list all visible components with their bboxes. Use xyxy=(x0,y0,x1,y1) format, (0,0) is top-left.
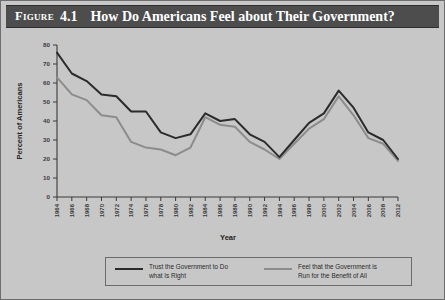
x-tick-label: 2012 xyxy=(395,203,401,217)
x-tick-label: 1984 xyxy=(202,203,208,217)
line-chart: 01020304050607080 1964196619681970197219… xyxy=(6,28,439,296)
legend-label-benefit: Feel that the Government is Run for the … xyxy=(298,263,377,280)
figure-title-bar: Figure 4.1 How Do Americans Feel about T… xyxy=(6,5,439,28)
x-tick-label: 1968 xyxy=(84,203,90,217)
y-tick-label: 50 xyxy=(43,98,50,105)
y-tick-label: 80 xyxy=(43,41,50,48)
figure-label: Figure xyxy=(15,9,54,24)
x-tick-label: 1994 xyxy=(277,203,283,217)
x-tick-label: 2002 xyxy=(336,203,342,217)
y-tick-group: 01020304050607080 xyxy=(43,41,57,200)
y-tick-label: 0 xyxy=(47,193,51,200)
figure-title: How Do Americans Feel about Their Govern… xyxy=(90,9,394,25)
x-tick-label: 1988 xyxy=(232,203,238,217)
plot-area: 01020304050607080 1964196619681970197219… xyxy=(6,28,439,296)
y-tick-label: 30 xyxy=(43,136,50,143)
y-axis-title: Percent of Americans xyxy=(15,83,24,160)
x-tick-label: 2000 xyxy=(321,203,327,217)
x-axis-title: Year xyxy=(220,233,236,242)
x-tick-label: 1964 xyxy=(54,203,60,217)
figure-container: Figure 4.1 How Do Americans Feel about T… xyxy=(0,0,445,300)
y-tick-label: 70 xyxy=(43,60,50,67)
x-tick-label: 1986 xyxy=(217,203,223,217)
y-tick-label: 40 xyxy=(43,117,50,124)
x-tick-label: 1980 xyxy=(173,203,179,217)
chart-legend: Trust the Government to Do what Is Right… xyxy=(105,257,412,286)
x-tick-label: 1992 xyxy=(262,203,268,217)
legend-label-trust: Trust the Government to Do what Is Right xyxy=(149,263,228,280)
legend-entry-benefit: Feel that the Government is Run for the … xyxy=(264,263,411,280)
x-tick-label: 1974 xyxy=(128,203,134,217)
x-tick-label: 2006 xyxy=(366,203,372,217)
y-tick-label: 10 xyxy=(43,174,50,181)
x-tick-label: 1970 xyxy=(99,203,105,217)
x-tick-label: 1998 xyxy=(306,203,312,217)
x-tick-label: 1996 xyxy=(291,203,297,217)
x-tick-label: 1990 xyxy=(247,203,253,217)
x-tick-label: 1978 xyxy=(158,203,164,217)
y-tick-label: 60 xyxy=(43,79,50,86)
legend-entry-trust: Trust the Government to Do what Is Right xyxy=(115,263,262,280)
line-swatch-light-icon xyxy=(264,268,292,270)
x-tick-label: 1966 xyxy=(69,203,75,217)
figure-number: 4.1 xyxy=(60,9,78,25)
x-tick-label: 1976 xyxy=(143,203,149,217)
x-tick-label: 1972 xyxy=(114,203,120,217)
x-tick-label: 1982 xyxy=(188,203,194,217)
series-group xyxy=(57,53,398,161)
x-tick-label: 2004 xyxy=(351,203,357,217)
y-tick-label: 20 xyxy=(43,155,50,162)
x-tick-label: 2008 xyxy=(380,203,386,217)
x-tick-group: 1964196619681970197219741976197819801982… xyxy=(54,197,401,217)
line-swatch-dark-icon xyxy=(115,268,143,270)
